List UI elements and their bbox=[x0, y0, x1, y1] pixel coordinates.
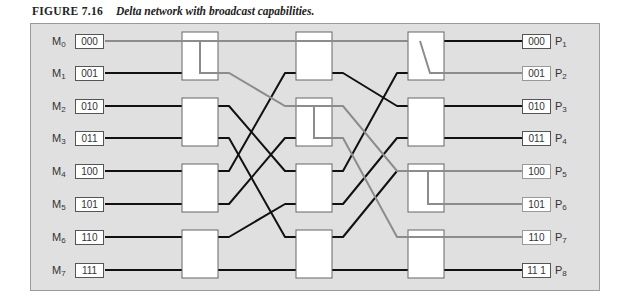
input-label-m1: M1 bbox=[52, 66, 66, 84]
switch-s3-1 bbox=[408, 98, 444, 146]
switch-s2-2 bbox=[296, 164, 332, 212]
input-address-m0: 000 bbox=[75, 34, 104, 49]
output-address-p3: 010 bbox=[522, 99, 551, 114]
output-label-p7: P7 bbox=[555, 230, 567, 248]
switch-s2-3 bbox=[296, 230, 332, 278]
input-label-m2: M2 bbox=[52, 99, 66, 117]
output-address-p2: 001 bbox=[522, 66, 551, 81]
output-address-p7: 110 bbox=[522, 230, 551, 245]
input-address-m5: 101 bbox=[75, 197, 104, 212]
input-address-m2: 010 bbox=[75, 99, 104, 114]
output-address-p5: 100 bbox=[522, 164, 551, 179]
switch-s1-2 bbox=[182, 164, 218, 212]
switch-s2-0 bbox=[296, 32, 332, 80]
output-label-p4: P4 bbox=[555, 131, 567, 149]
input-label-m7: M7 bbox=[52, 263, 66, 281]
input-label-m6: M6 bbox=[52, 230, 66, 248]
output-address-p1: 000 bbox=[522, 34, 551, 49]
input-address-m1: 001 bbox=[75, 66, 104, 81]
input-address-m7: 111 bbox=[75, 263, 104, 278]
switch-s1-3 bbox=[182, 230, 218, 278]
output-address-p4: 011 bbox=[522, 131, 551, 146]
input-label-m3: M3 bbox=[52, 131, 66, 149]
output-address-p8: 11 1 bbox=[522, 263, 551, 278]
input-label-m0: M0 bbox=[52, 34, 66, 52]
output-label-p5: P5 bbox=[555, 164, 567, 182]
output-label-p2: P2 bbox=[555, 66, 567, 84]
output-address-p6: 101 bbox=[522, 197, 551, 212]
input-label-m4: M4 bbox=[52, 164, 66, 182]
output-label-p1: P1 bbox=[555, 34, 567, 52]
input-address-m3: 011 bbox=[75, 131, 104, 146]
input-label-m5: M5 bbox=[52, 197, 66, 215]
input-address-m4: 100 bbox=[75, 164, 104, 179]
switches bbox=[182, 32, 444, 278]
output-label-p8: P8 bbox=[555, 263, 567, 281]
switch-s1-1 bbox=[182, 98, 218, 146]
output-label-p6: P6 bbox=[555, 197, 567, 215]
output-label-p3: P3 bbox=[555, 99, 567, 117]
input-address-m6: 110 bbox=[75, 230, 104, 245]
